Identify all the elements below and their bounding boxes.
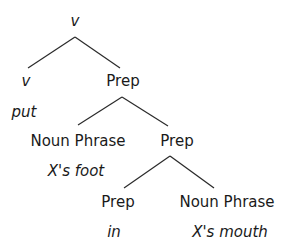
node-prep-2: Prep bbox=[160, 132, 193, 150]
edge-prep1-left bbox=[78, 97, 122, 125]
edge-root-right bbox=[75, 37, 120, 68]
node-noun-phrase-2: Noun Phrase bbox=[179, 193, 274, 211]
word-xs-foot: X's foot bbox=[48, 162, 105, 180]
node-prep-1: Prep bbox=[106, 72, 139, 90]
word-in: in bbox=[107, 223, 121, 241]
node-prep-3: Prep bbox=[101, 193, 134, 211]
edge-prep2-left bbox=[124, 156, 170, 188]
word-put: put bbox=[12, 103, 37, 121]
edge-prep1-right bbox=[122, 97, 168, 126]
node-noun-phrase-1: Noun Phrase bbox=[30, 132, 125, 150]
node-root-v: v bbox=[71, 12, 80, 30]
word-xs-mouth: X's mouth bbox=[192, 223, 268, 241]
node-v: v bbox=[22, 72, 31, 90]
edge-root-left bbox=[28, 37, 75, 68]
edge-prep2-right bbox=[170, 156, 214, 188]
tree-edges bbox=[0, 0, 296, 250]
